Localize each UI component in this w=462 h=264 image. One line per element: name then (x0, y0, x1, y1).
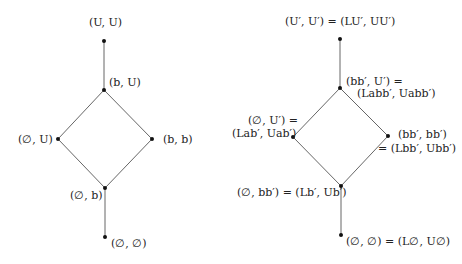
label-left-empty-U: (∅, U) (18, 134, 53, 146)
label-right-bottom: (∅, ∅) = (L∅, U∅) (346, 236, 450, 248)
right-lattice-nodes (291, 37, 390, 237)
left-lattice-edges (58, 41, 152, 237)
right-lattice-edges (293, 39, 388, 235)
label-left-top: (U, U) (89, 17, 122, 29)
label-right-top: (U′, U′) = (LU′, UU′) (285, 16, 395, 28)
label-right-bb-bb-line1: (bb′, bb′) (398, 129, 447, 141)
label-right-bb-bb-line2: = (Lbb′, Ubb′) (378, 143, 456, 155)
label-right-empty-U-line1: (∅, U′) = (248, 115, 298, 127)
label-left-b-b: (b, b) (163, 134, 193, 146)
lattice-edges-and-nodes (0, 0, 462, 264)
label-left-b-U: (b, U) (109, 77, 141, 89)
label-left-empty-b: (∅, b) (70, 190, 103, 202)
label-right-bb-U-line2: (Labb′, Uabb′) (357, 88, 435, 100)
label-right-empty-bb: (∅, bb′) = (Lb′, Ub′) (237, 187, 347, 199)
lattice-diagrams: (U, U) (b, U) (∅, U) (b, b) (∅, b) (∅, ∅… (0, 0, 462, 264)
label-left-bottom: (∅, ∅) (111, 238, 147, 250)
label-right-empty-U-line2: (Lab′, Uab′) (232, 128, 296, 140)
